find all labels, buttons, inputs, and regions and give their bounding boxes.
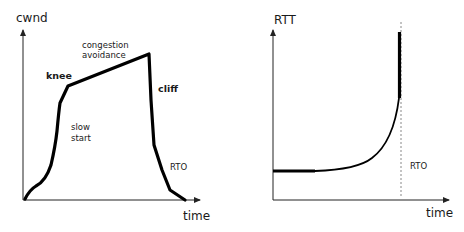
- cwnd-chart: cwnd time knee congestion avoidance clif…: [16, 11, 210, 223]
- rto-label-left: RTO: [170, 162, 187, 172]
- slow-start-label-line2: start: [71, 133, 91, 143]
- congestion-avoidance-label-line2: avoidance: [82, 50, 126, 60]
- knee-label: knee: [46, 70, 72, 81]
- rto-label-right: RTO: [410, 161, 427, 171]
- rtt-y-axis-label: RTT: [274, 13, 297, 27]
- cwnd-y-axis-label: cwnd: [16, 11, 48, 25]
- congestion-avoidance-label-line1: congestion: [82, 40, 129, 50]
- rtt-curve: [315, 98, 399, 171]
- diagram-canvas: cwnd time knee congestion avoidance clif…: [0, 0, 464, 232]
- cliff-label: cliff: [158, 83, 178, 94]
- rtt-x-axis-label: time: [426, 206, 453, 220]
- slow-start-label-line1: slow: [71, 122, 90, 132]
- rtt-chart: RTT time RTO: [273, 13, 453, 220]
- cwnd-x-axis-label: time: [183, 209, 210, 223]
